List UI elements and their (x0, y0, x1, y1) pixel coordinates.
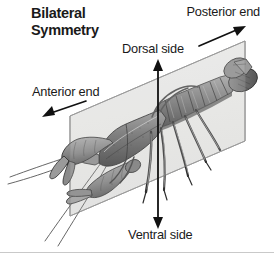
label-ventral-side: Ventral side (128, 228, 192, 241)
label-anterior-end: Anterior end (32, 85, 99, 98)
title-line-2: Symmetry (31, 22, 99, 39)
bilateral-symmetry-figure: Bilateral Symmetry Posterior end Dorsal … (0, 0, 274, 253)
label-dorsal-side: Dorsal side (122, 42, 184, 55)
label-posterior-end: Posterior end (186, 5, 260, 18)
title-line-1: Bilateral (31, 5, 99, 22)
posterior-arrow (199, 26, 246, 46)
page-title: Bilateral Symmetry (31, 5, 99, 38)
